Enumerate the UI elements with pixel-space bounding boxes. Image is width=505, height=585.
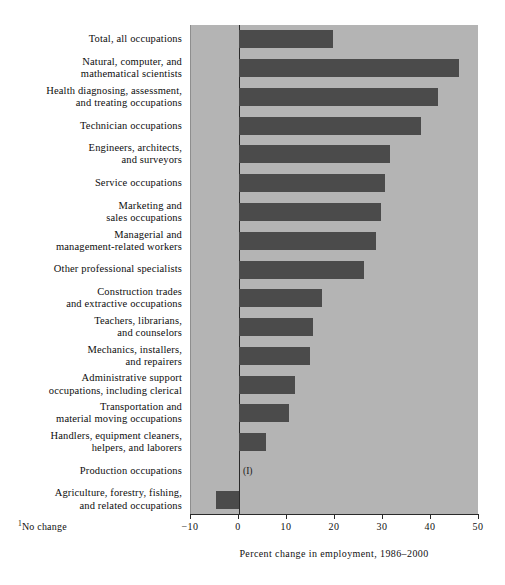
bar [239,289,322,307]
bar [216,491,239,509]
category-label: Handlers, equipment cleaners, helpers, a… [0,430,182,454]
category-label: Engineers, architects, and surveyors [0,142,182,166]
category-label: Mechanics, installers, and repairers [0,344,182,368]
x-tick-label: 40 [425,521,436,532]
bars-container: (I) [191,25,478,514]
footnote-text: No change [22,521,67,532]
bar [239,88,438,106]
x-tick [238,514,239,519]
category-axis-labels: Total, all occupationsNatural, computer,… [0,25,186,514]
x-tick [430,514,431,519]
x-tick-label: −10 [182,521,199,532]
bar [239,318,313,336]
x-tick [478,514,479,519]
category-label: Teachers, librarians, and counselors [0,315,182,339]
chart-figure: Total, all occupationsNatural, computer,… [0,0,505,585]
bar [239,174,385,192]
x-tick-label: 0 [235,521,240,532]
category-label: Technician occupations [0,120,182,132]
category-label: Health diagnosing, assessment, and treat… [0,85,182,109]
category-label: Agriculture, forestry, fishing, and rela… [0,487,182,511]
category-label: Total, all occupations [0,33,182,45]
x-axis-title: Percent change in employment, 1986–2000 [190,548,478,559]
category-label: Administrative support occupations, incl… [0,372,182,396]
x-tick-label: 10 [281,521,292,532]
x-tick [190,514,191,519]
category-label: Transportation and material moving occup… [0,401,182,425]
plot-area: (I) [190,25,478,514]
bar [239,433,266,451]
bar [239,376,295,394]
bar [239,232,376,250]
category-label: Managerial and management-related worker… [0,229,182,253]
x-tick-label: 50 [473,521,484,532]
bar [239,117,421,135]
bar [239,347,310,365]
bar [239,30,333,48]
x-tick [334,514,335,519]
bar [239,59,459,77]
x-axis: −1001020304050 [190,514,478,515]
x-tick [286,514,287,519]
x-tick [382,514,383,519]
bar [239,203,381,221]
bar [239,404,289,422]
no-change-annotation: (I) [243,462,253,480]
bar [239,261,364,279]
category-label: Natural, computer, and mathematical scie… [0,56,182,80]
category-label: Construction trades and extractive occup… [0,286,182,310]
x-tick-label: 20 [329,521,340,532]
bar [239,145,390,163]
category-label: Marketing and sales occupations [0,200,182,224]
footnote: 1No change [18,519,67,532]
category-label: Service occupations [0,177,182,189]
category-label: Production occupations [0,465,182,477]
category-label: Other professional specialists [0,263,182,275]
x-tick-label: 30 [377,521,388,532]
